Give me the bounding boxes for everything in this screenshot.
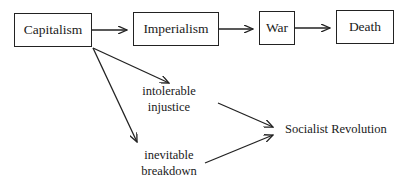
arrow-injustice-revolution xyxy=(218,103,273,127)
node-inevitable-breakdown: inevitable breakdown xyxy=(133,147,205,179)
node-imperialism: Imperialism xyxy=(133,12,219,46)
arrow-capitalism-breakdown xyxy=(93,48,137,142)
node-death-label: Death xyxy=(349,19,381,35)
arrow-breakdown-revolution xyxy=(205,135,273,163)
arrow-capitalism-injustice xyxy=(93,48,169,83)
node-war: War xyxy=(259,11,295,45)
node-capitalism: Capitalism xyxy=(14,13,92,47)
node-capitalism-label: Capitalism xyxy=(24,22,83,38)
intolerable-injustice-line2: injustice xyxy=(133,99,205,115)
node-death: Death xyxy=(336,10,394,44)
inevitable-breakdown-line1: inevitable xyxy=(133,147,205,163)
node-war-label: War xyxy=(266,20,288,36)
node-socialist-revolution: Socialist Revolution xyxy=(285,121,395,137)
node-imperialism-label: Imperialism xyxy=(143,21,208,37)
intolerable-injustice-line1: intolerable xyxy=(133,83,205,99)
socialist-revolution-label: Socialist Revolution xyxy=(285,122,387,136)
node-intolerable-injustice: intolerable injustice xyxy=(133,83,205,115)
inevitable-breakdown-line2: breakdown xyxy=(133,163,205,179)
